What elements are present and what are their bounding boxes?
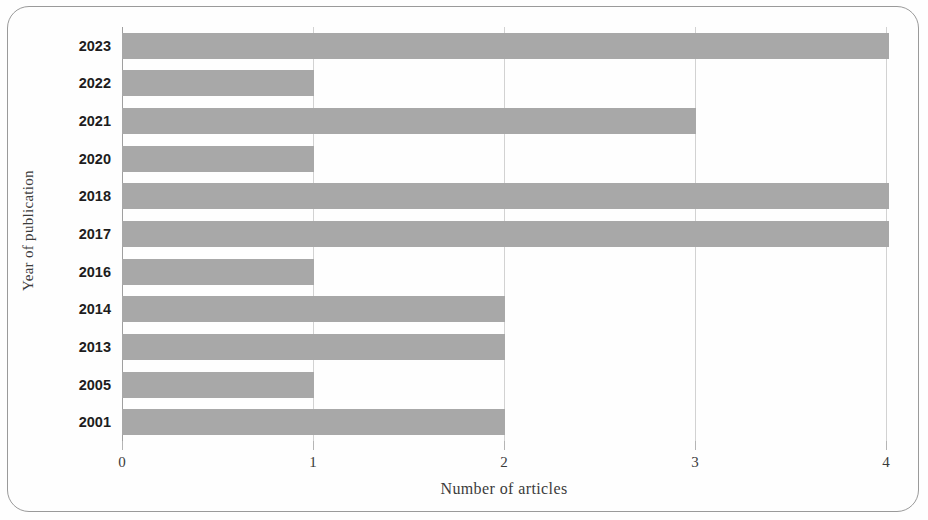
bar xyxy=(122,296,505,322)
bar-row: 2013 xyxy=(122,334,886,360)
y-axis-category-label: 2005 xyxy=(31,372,111,398)
bar-row: 2018 xyxy=(122,183,886,209)
y-axis-category-label: 2021 xyxy=(31,108,111,134)
bar-row: 2014 xyxy=(122,296,886,322)
bar-row: 2022 xyxy=(122,70,886,96)
bar xyxy=(122,334,505,360)
bar xyxy=(122,146,314,172)
y-axis-category-label: 2016 xyxy=(31,259,111,285)
x-axis-tick-mark xyxy=(504,441,505,450)
bar-row: 2001 xyxy=(122,409,886,435)
bar xyxy=(122,221,889,247)
y-axis-category-label: 2013 xyxy=(31,334,111,360)
bar xyxy=(122,372,314,398)
x-axis-tick-label: 2 xyxy=(484,454,524,471)
y-axis-category-label: 2018 xyxy=(31,183,111,209)
bar-row: 2020 xyxy=(122,146,886,172)
y-axis-category-label: 2020 xyxy=(31,146,111,172)
x-axis-tick-mark xyxy=(695,441,696,450)
x-axis-tick-label: 4 xyxy=(866,454,906,471)
bar xyxy=(122,409,505,435)
bar-row: 2021 xyxy=(122,108,886,134)
bar-row: 2017 xyxy=(122,221,886,247)
y-axis-category-label: 2001 xyxy=(31,409,111,435)
y-axis-category-label: 2022 xyxy=(31,70,111,96)
bar-row: 2016 xyxy=(122,259,886,285)
x-axis-tick-label: 3 xyxy=(675,454,715,471)
x-axis-tick-mark xyxy=(886,441,887,450)
x-axis-tick-mark xyxy=(122,441,123,450)
bar xyxy=(122,183,889,209)
x-axis-tick-label: 0 xyxy=(102,454,142,471)
y-axis-category-label: 2023 xyxy=(31,33,111,59)
plot-area: 01234 2023202220212020201820172016201420… xyxy=(122,27,886,441)
y-axis-category-label: 2017 xyxy=(31,221,111,247)
bar xyxy=(122,33,889,59)
bar xyxy=(122,259,314,285)
x-axis-title: Number of articles xyxy=(122,480,886,498)
x-axis-tick-mark xyxy=(313,441,314,450)
bar-row: 2023 xyxy=(122,33,886,59)
y-axis-category-label: 2014 xyxy=(31,296,111,322)
bar xyxy=(122,108,696,134)
bar xyxy=(122,70,314,96)
x-axis-tick-label: 1 xyxy=(293,454,333,471)
bar-row: 2005 xyxy=(122,372,886,398)
chart-figure: Year of publication 01234 20232022202120… xyxy=(0,0,928,520)
